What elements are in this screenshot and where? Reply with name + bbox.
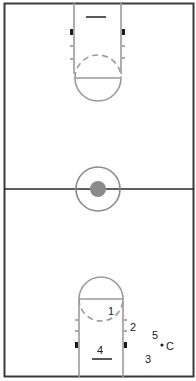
basketball-court: 1 2 3 4 5 C	[0, 0, 196, 381]
top-left-block	[70, 29, 73, 35]
top-lane	[70, 3, 125, 101]
top-free-throw-circle-dashed	[75, 55, 121, 78]
player-3-label: 3	[145, 353, 151, 365]
coach-label: C	[166, 340, 174, 352]
player-2-label: 2	[130, 321, 136, 333]
bottom-left-block	[75, 342, 78, 348]
player-5-label: 5	[152, 329, 158, 341]
bottom-lane	[75, 277, 127, 377]
top-free-throw-circle-solid	[75, 78, 121, 101]
coach-dot	[160, 343, 163, 346]
player-4-label: 4	[97, 344, 103, 356]
bottom-right-block	[124, 342, 127, 348]
bottom-free-throw-circle-solid	[79, 277, 123, 299]
bottom-free-throw-circle-dashed	[79, 299, 123, 321]
top-right-block	[122, 29, 125, 35]
center-dot	[90, 181, 106, 197]
player-1-label: 1	[108, 305, 114, 317]
